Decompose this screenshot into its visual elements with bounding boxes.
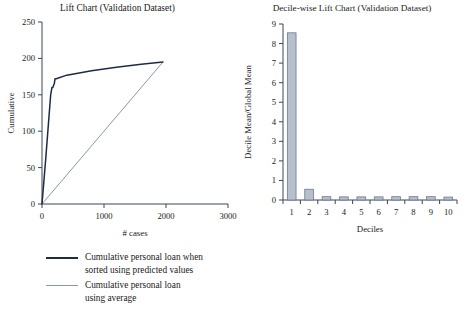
decile-x-tick-label: 2 xyxy=(307,207,311,217)
decile-lift-chart-panel: Decile-wise Lift Chart (Validation Datas… xyxy=(235,0,469,250)
decile-x-tick-label: 7 xyxy=(394,207,399,217)
decile-x-tick-label: 5 xyxy=(359,207,363,217)
decile-x-axis-title: Deciles xyxy=(357,224,384,234)
lift-x-tick-label: 0 xyxy=(40,211,44,221)
legend-line-swatch-predicted xyxy=(46,257,78,259)
decile-bar xyxy=(357,197,366,200)
legend-entry-predicted: Cumulative personal loan when sorted usi… xyxy=(46,251,203,276)
lift-y-tick-label: 200 xyxy=(22,53,35,63)
decile-bar xyxy=(427,197,436,200)
legend-label-predicted: Cumulative personal loan when sorted usi… xyxy=(85,251,203,276)
decile-lift-chart-plot: 012345678912345678910DecilesDecile Mean/… xyxy=(235,0,469,250)
decile-x-tick-label: 6 xyxy=(377,207,382,217)
decile-bar xyxy=(409,197,418,200)
decile-x-tick-label: 10 xyxy=(444,207,453,217)
lift-chart-panel: Lift Chart (Validation Dataset) 05010015… xyxy=(0,0,235,250)
decile-x-tick-label: 3 xyxy=(324,207,328,217)
lift-y-tick-label: 150 xyxy=(22,90,35,100)
decile-y-tick-label: 0 xyxy=(272,195,276,205)
decile-y-tick-label: 6 xyxy=(272,78,277,88)
legend-entry-average: Cumulative personal loan using average xyxy=(46,279,181,304)
decile-y-tick-label: 8 xyxy=(272,39,276,49)
decile-bar xyxy=(287,33,296,200)
decile-y-axis-title: Decile Mean/Global Mean xyxy=(243,65,253,159)
chart-legend: Cumulative personal loan when sorted usi… xyxy=(0,248,250,310)
decile-bar xyxy=(444,197,453,200)
lift-y-axis-title: Cumulative xyxy=(6,92,16,133)
legend-line-swatch-average xyxy=(46,285,78,286)
decile-x-tick-label: 8 xyxy=(411,207,415,217)
lift-y-tick-label: 250 xyxy=(22,17,35,27)
lift-y-tick-label: 0 xyxy=(31,199,35,209)
lift-x-tick-label: 1000 xyxy=(95,211,112,221)
lift-series-average xyxy=(42,62,163,204)
decile-y-tick-label: 7 xyxy=(272,58,277,68)
decile-y-tick-label: 5 xyxy=(272,97,276,107)
decile-x-tick-label: 4 xyxy=(342,207,347,217)
decile-y-tick-label: 2 xyxy=(272,156,276,166)
legend-label-average: Cumulative personal loan using average xyxy=(85,279,181,304)
lift-y-tick-label: 50 xyxy=(26,163,35,173)
decile-bar xyxy=(340,197,349,200)
decile-bar xyxy=(392,197,401,200)
decile-y-tick-label: 1 xyxy=(272,175,276,185)
lift-x-axis-title: # cases xyxy=(122,228,148,238)
lift-chart-plot: 0501001502002500100020003000# casesCumul… xyxy=(0,0,235,250)
decile-x-tick-label: 9 xyxy=(429,207,433,217)
decile-x-tick-label: 1 xyxy=(290,207,294,217)
decile-bar xyxy=(374,197,383,200)
lift-x-tick-label: 2000 xyxy=(157,211,174,221)
decile-bar xyxy=(322,197,331,200)
decile-y-tick-label: 4 xyxy=(272,117,277,127)
decile-y-tick-label: 3 xyxy=(272,136,276,146)
decile-y-tick-label: 9 xyxy=(272,19,276,29)
lift-y-tick-label: 100 xyxy=(22,126,35,136)
decile-bar xyxy=(305,189,314,200)
